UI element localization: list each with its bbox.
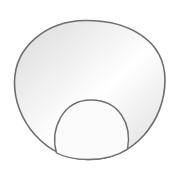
diagram-svg [0,0,183,175]
diagram-canvas [0,0,183,175]
